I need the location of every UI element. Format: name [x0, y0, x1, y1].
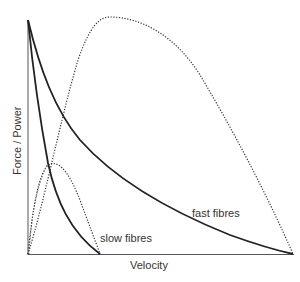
x-axis-label: Velocity — [130, 259, 168, 271]
fast-fibres-label: fast fibres — [192, 207, 240, 219]
slow-fibres-force-curve — [28, 20, 100, 254]
y-axis-label: Force / Power — [11, 107, 23, 175]
slow-fibres-label: slow fibres — [100, 232, 152, 244]
